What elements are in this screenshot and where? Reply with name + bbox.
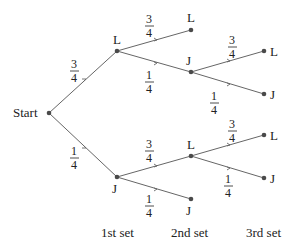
node-J1L <box>189 154 194 159</box>
fraction-start-J1: 1 4 <box>70 144 79 172</box>
denominator: 4 <box>71 71 77 85</box>
denominator: 4 <box>229 131 235 145</box>
fraction-L1-J: 1 4 <box>145 68 154 96</box>
denominator: 4 <box>229 47 235 61</box>
node-J1LL <box>262 133 267 138</box>
numerator: 3 <box>146 137 152 151</box>
label-start: Start <box>13 105 38 120</box>
arrow-icon <box>82 145 86 148</box>
node-J1LJ <box>262 176 267 181</box>
label-J1J: J <box>186 203 191 218</box>
node-L1J <box>189 70 194 75</box>
node-L1JJ <box>262 92 267 97</box>
numerator: 3 <box>146 12 152 26</box>
edge-L1-J <box>117 51 191 72</box>
numerator: 3 <box>229 33 235 47</box>
denominator: 4 <box>146 151 152 165</box>
arrow-icon <box>227 83 230 86</box>
arrow-icon <box>154 188 157 191</box>
arrow-icon <box>227 167 230 170</box>
column-label-3rd-set: 3rd set <box>246 225 281 240</box>
numerator: 3 <box>229 117 235 131</box>
label-L1: L <box>113 32 121 47</box>
tree-diagram: Start L J L J L J L J L J 3 4 1 4 3 4 <box>0 0 292 247</box>
denominator: 4 <box>146 82 152 96</box>
node-L1L <box>189 28 194 33</box>
node-L1JL <box>262 49 267 54</box>
column-label-1st-set: 1st set <box>101 225 134 240</box>
arrow-icon <box>82 79 86 82</box>
label-L1J: J <box>186 53 191 68</box>
label-L1L: L <box>187 10 195 25</box>
numerator: 1 <box>211 89 217 103</box>
column-label-2nd-set: 2nd set <box>171 225 209 240</box>
probabilities: 3 4 1 4 3 4 1 4 3 4 1 <box>70 12 237 220</box>
label-J1LJ: J <box>270 171 275 186</box>
denominator: 4 <box>71 158 77 172</box>
arrowheads <box>82 38 230 191</box>
node-J1 <box>115 175 120 180</box>
arrow-icon <box>154 164 157 167</box>
fraction-L1J-L: 3 4 <box>228 33 237 61</box>
denominator: 4 <box>211 103 217 117</box>
numerator: 1 <box>146 68 152 82</box>
node-J1J <box>189 197 194 202</box>
arrow-icon <box>154 62 157 65</box>
numerator: 3 <box>71 57 77 71</box>
node-L1 <box>115 49 120 54</box>
label-L1JL: L <box>270 44 278 59</box>
denominator: 4 <box>225 186 231 200</box>
column-labels: 1st set 2nd set 3rd set <box>101 225 281 240</box>
fraction-J1L-J: 1 4 <box>224 172 233 200</box>
label-J1L: L <box>187 137 195 152</box>
numerator: 1 <box>71 144 77 158</box>
label-J1: J <box>112 181 117 196</box>
node-labels: Start L J L J L J L J L J <box>13 10 278 218</box>
edge-L1-L <box>117 30 191 51</box>
arrow-icon <box>154 38 157 41</box>
fraction-J1L-L: 3 4 <box>228 117 237 145</box>
denominator: 4 <box>146 206 152 220</box>
fraction-J1-L: 3 4 <box>145 137 154 165</box>
fraction-J1-J: 1 4 <box>145 192 154 220</box>
label-J1LL: L <box>270 128 278 143</box>
fraction-L1-L: 3 4 <box>145 12 154 40</box>
numerator: 1 <box>225 172 231 186</box>
fraction-start-L1: 3 4 <box>70 57 79 85</box>
edge-J1-L <box>117 156 191 177</box>
fraction-L1J-J: 1 4 <box>210 89 219 117</box>
numerator: 1 <box>146 192 152 206</box>
node-start <box>47 111 52 116</box>
label-L1JJ: J <box>270 87 275 102</box>
denominator: 4 <box>146 26 152 40</box>
